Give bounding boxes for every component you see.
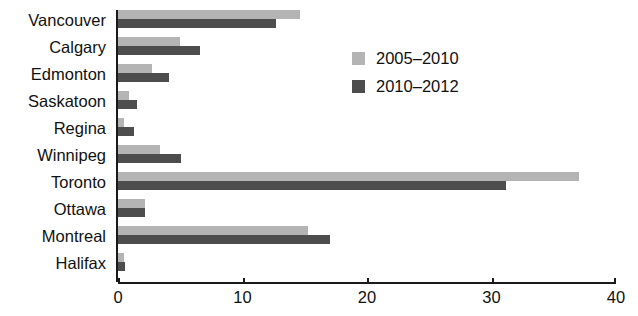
bar-ottawa-2010-2012 [118,208,145,217]
bar-saskatoon-2005-2010 [118,91,129,100]
category-label-edmonton: Edmonton [0,65,106,83]
bar-montreal-2010-2012 [118,235,330,244]
legend-item-2: 2010–2012 [352,72,532,100]
bar-montreal-2005-2010 [118,226,308,235]
category-axis-labels: VancouverCalgaryEdmontonSaskatoonReginaW… [0,10,112,280]
x-tick-20 [367,278,369,284]
legend-label-1: 2005–2010 [376,49,459,68]
bar-ottawa-2005-2010 [118,199,145,208]
legend-label-2: 2010–2012 [376,77,459,96]
x-tick-10 [243,278,245,284]
category-label-regina: Regina [0,119,106,137]
category-label-winnipeg: Winnipeg [0,146,106,164]
x-tick-label-40: 40 [607,288,625,307]
x-tick-30 [492,278,494,284]
bar-edmonton-2010-2012 [118,73,169,82]
category-label-montreal: Montreal [0,227,106,245]
category-label-ottawa: Ottawa [0,200,106,218]
category-label-calgary: Calgary [0,38,106,56]
bar-winnipeg-2005-2010 [118,145,160,154]
legend-swatch-icon-1 [352,52,365,65]
bar-edmonton-2005-2010 [118,64,152,73]
x-axis: 010203040 [116,282,618,316]
legend-item-1: 2005–2010 [352,44,532,72]
category-label-toronto: Toronto [0,173,106,191]
bar-toronto-2005-2010 [118,172,579,181]
bar-winnipeg-2010-2012 [118,154,181,163]
bar-halifax-2010-2012 [118,262,125,271]
chart-legend: 2005–20102010–2012 [352,44,532,100]
category-label-saskatoon: Saskatoon [0,92,106,110]
category-label-vancouver: Vancouver [0,11,106,29]
bar-saskatoon-2010-2012 [118,100,137,109]
bar-toronto-2010-2012 [118,181,506,190]
x-tick-0 [118,278,120,284]
bar-vancouver-2005-2010 [118,10,300,19]
bar-chart: VancouverCalgaryEdmontonSaskatoonReginaW… [0,0,638,316]
chart-title-clipped [0,0,638,4]
x-tick-label-30: 30 [482,288,500,307]
bar-calgary-2005-2010 [118,37,180,46]
x-tick-40 [614,278,616,284]
x-tick-label-0: 0 [113,288,122,307]
bar-regina-2005-2010 [118,118,124,127]
bar-regina-2010-2012 [118,127,134,136]
legend-swatch-icon-2 [352,80,365,93]
bar-halifax-2005-2010 [118,253,124,262]
category-label-halifax: Halifax [0,254,106,272]
bar-calgary-2010-2012 [118,46,200,55]
bar-vancouver-2010-2012 [118,19,276,28]
x-tick-label-10: 10 [233,288,251,307]
x-tick-label-20: 20 [358,288,376,307]
